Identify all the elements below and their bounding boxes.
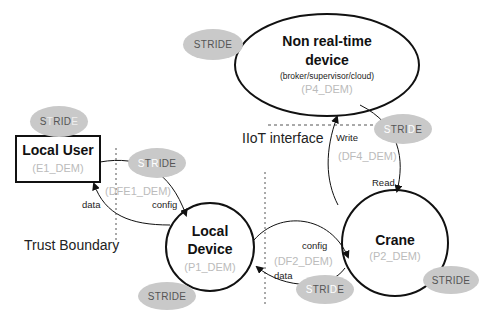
title-line: Non real-time — [262, 32, 392, 51]
dfd-diagram: Non real-time device (broker/supervisor/… — [0, 0, 488, 315]
stride-letter: D — [172, 291, 180, 302]
stride-badge-df2: STRIDE — [296, 275, 354, 304]
iiot-interface-label: IIoT interface — [242, 130, 323, 146]
node-non-realtime-id: (P4_DEM) — [277, 83, 377, 95]
stride-letter: S — [148, 291, 155, 302]
stride-badge-p1: STRIDE — [138, 282, 196, 310]
stride-letter: R — [397, 124, 405, 135]
flow-df2-config: config — [302, 240, 327, 251]
node-local-user-title: Local User — [16, 142, 100, 158]
trust-boundary-label: Trust Boundary — [24, 237, 119, 253]
stride-letter: R — [319, 284, 327, 295]
stride-letter: R — [445, 275, 453, 286]
stride-letter: D — [64, 116, 72, 127]
stride-letter: E — [337, 284, 344, 295]
stride-letter: E — [179, 291, 186, 302]
stride-badge-df1: STRIDE — [128, 148, 186, 178]
stride-badge-p4: STRIDE — [183, 29, 243, 60]
title-line: Local — [170, 222, 250, 240]
node-local-device-title: Local Device — [170, 222, 250, 258]
flow-df1-config: config — [152, 199, 177, 210]
flow-df4-read: Read — [372, 177, 395, 188]
flow-df1-data: data — [82, 199, 101, 210]
stride-letter: S — [306, 284, 313, 295]
stride-badge-e1: STRIDE — [30, 106, 88, 137]
stride-letter: D — [408, 124, 416, 135]
stride-letter: E — [225, 39, 232, 50]
stride-badge-p2: STRIDE — [423, 266, 479, 294]
stride-letter: E — [169, 158, 176, 169]
stride-letter: R — [53, 116, 61, 127]
title-line: device — [262, 51, 392, 70]
stride-letter: R — [207, 39, 215, 50]
stride-letter: D — [162, 158, 170, 169]
flow-df4-write: Write — [336, 132, 358, 143]
node-non-realtime-title: Non real-time device — [262, 32, 392, 70]
node-non-realtime-subtitle: (broker/supervisor/cloud) — [252, 71, 402, 81]
stride-letter: E — [415, 124, 422, 135]
flow-df2-id: (DF2_DEM) — [274, 255, 333, 267]
flow-df4-id: (DF4_DEM) — [338, 150, 397, 162]
stride-letter: D — [456, 275, 464, 286]
flow-df2-data: data — [274, 270, 293, 281]
stride-letter: R — [151, 158, 159, 169]
stride-badge-df4: STRIDE — [374, 114, 432, 144]
flow-df1-id: (DFE1_DEM) — [105, 185, 171, 197]
stride-letter: S — [194, 39, 201, 50]
node-crane-id: (P2_DEM) — [355, 250, 435, 262]
stride-letter: S — [40, 116, 47, 127]
stride-letter: S — [432, 275, 439, 286]
stride-letter: E — [463, 275, 470, 286]
node-crane-title: Crane — [355, 232, 435, 248]
node-local-device-id: (P1_DEM) — [170, 261, 250, 273]
stride-letter: R — [161, 291, 169, 302]
stride-letter: S — [138, 158, 145, 169]
node-local-user-id: (E1_DEM) — [16, 162, 100, 174]
stride-letter: D — [218, 39, 226, 50]
stride-letter: E — [71, 116, 78, 127]
title-line: Device — [170, 240, 250, 258]
stride-letter: D — [330, 284, 338, 295]
stride-letter: S — [384, 124, 391, 135]
